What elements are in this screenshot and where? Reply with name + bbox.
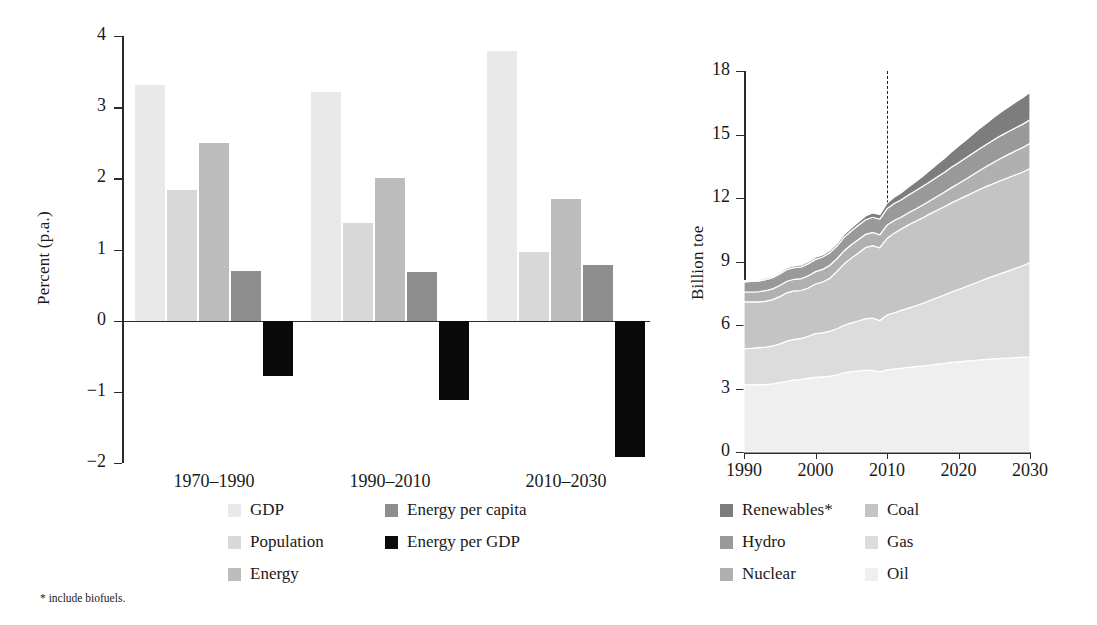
legend-swatch-icon (865, 568, 878, 581)
bar (615, 321, 645, 457)
left-zero-baseline (122, 321, 650, 323)
legend-label: Energy per GDP (407, 532, 520, 552)
area-chart-panel: Billion toe 0369121518 19902000201020202… (660, 0, 1097, 625)
left-y-axis-line (122, 36, 124, 463)
bar (343, 223, 373, 320)
left-y-tick-mark (114, 107, 122, 108)
legend-item[interactable]: GDP (228, 500, 284, 520)
figure-root: Percent (p.a.) 43210−1−2 1970–19901990–2… (0, 0, 1097, 625)
legend-swatch-icon (228, 536, 241, 549)
left-x-tick: 1970–1990 (144, 471, 284, 492)
bar (583, 265, 613, 321)
bar (231, 271, 261, 321)
left-y-tick-mark (114, 321, 122, 322)
legend-swatch-icon (720, 536, 733, 549)
legend-item[interactable]: Energy per GDP (385, 532, 520, 552)
bar (167, 190, 197, 320)
bar (519, 252, 549, 320)
right-x-tick: 2010 (847, 460, 927, 481)
legend-label: Renewables* (742, 500, 833, 520)
legend-swatch-icon (865, 536, 878, 549)
legend-item[interactable]: Renewables* (720, 500, 833, 520)
left-y-tick-mark (114, 463, 122, 464)
bar (311, 92, 341, 320)
left-y-tick: −1 (60, 380, 106, 401)
left-y-tick-mark (114, 250, 122, 251)
left-y-tick: 0 (60, 309, 106, 330)
legend-swatch-icon (720, 504, 733, 517)
bar-chart-panel: Percent (p.a.) 43210−1−2 1970–19901990–2… (0, 0, 660, 625)
bar (439, 321, 469, 400)
right-x-tick: 2000 (776, 460, 856, 481)
left-y-tick-mark (114, 36, 122, 37)
left-y-tick: 4 (60, 24, 106, 45)
legend-label: Nuclear (742, 564, 796, 584)
legend-item[interactable]: Nuclear (720, 564, 796, 584)
bar (199, 143, 229, 321)
legend-swatch-icon (385, 536, 398, 549)
figure-footnote: * include biofuels. (40, 592, 125, 604)
left-y-tick: 3 (60, 95, 106, 116)
legend-item[interactable]: Energy per capita (385, 500, 527, 520)
left-y-tick-mark (114, 178, 122, 179)
legend-label: Gas (887, 532, 913, 552)
right-x-tick: 2030 (990, 460, 1070, 481)
bar (135, 85, 165, 321)
left-y-tick: 1 (60, 238, 106, 259)
left-x-tick: 2010–2030 (496, 471, 636, 492)
legend-label: Oil (887, 564, 909, 584)
left-axis-label: Percent (p.a.) (34, 211, 54, 305)
legend-swatch-icon (865, 504, 878, 517)
legend-item[interactable]: Gas (865, 532, 913, 552)
left-x-tick: 1990–2010 (320, 471, 460, 492)
legend-item[interactable]: Energy (228, 564, 299, 584)
bar (487, 51, 517, 321)
legend-item[interactable]: Oil (865, 564, 909, 584)
legend-item[interactable]: Hydro (720, 532, 785, 552)
legend-item[interactable]: Coal (865, 500, 919, 520)
legend-label: Coal (887, 500, 919, 520)
legend-label: Population (250, 532, 324, 552)
left-y-tick: 2 (60, 166, 106, 187)
left-y-tick-mark (114, 392, 122, 393)
legend-swatch-icon (720, 568, 733, 581)
bar (263, 321, 293, 377)
bar (407, 272, 437, 320)
right-x-tick: 2020 (919, 460, 999, 481)
bar (551, 199, 581, 321)
legend-swatch-icon (385, 504, 398, 517)
legend-item[interactable]: Population (228, 532, 324, 552)
legend-label: GDP (250, 500, 284, 520)
bar (375, 178, 405, 321)
right-x-tick: 1990 (704, 460, 784, 481)
legend-label: Energy (250, 564, 299, 584)
legend-swatch-icon (228, 568, 241, 581)
legend-swatch-icon (228, 504, 241, 517)
left-y-tick: −2 (60, 451, 106, 472)
legend-label: Hydro (742, 532, 785, 552)
legend-label: Energy per capita (407, 500, 527, 520)
